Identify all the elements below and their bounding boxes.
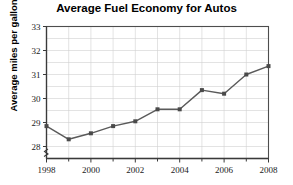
x-tick-label: 2002 bbox=[126, 165, 144, 175]
y-tick-label: 30 bbox=[32, 94, 42, 104]
chart-figure: Average Fuel Economy for Autos Average m… bbox=[0, 0, 293, 185]
data-point-marker bbox=[222, 92, 226, 96]
x-tick-label: 2006 bbox=[215, 165, 234, 175]
data-point-marker bbox=[89, 131, 93, 135]
data-point-marker bbox=[244, 73, 248, 77]
x-tick-label: 2008 bbox=[260, 165, 279, 175]
data-point-marker bbox=[133, 119, 137, 123]
y-tick-label: 32 bbox=[32, 46, 41, 56]
data-point-marker bbox=[45, 124, 49, 128]
data-point-marker bbox=[111, 124, 115, 128]
axis-break-mark bbox=[44, 149, 48, 157]
data-point-marker bbox=[178, 107, 182, 111]
line-chart-plot: 282930313233199820002002200420062008 bbox=[0, 0, 293, 185]
y-axis-break-icon bbox=[44, 149, 48, 157]
x-tick-label: 2004 bbox=[171, 165, 190, 175]
data-point-marker bbox=[67, 137, 71, 141]
x-tick-label: 1998 bbox=[38, 165, 57, 175]
data-point-marker bbox=[267, 64, 271, 68]
y-tick-label: 31 bbox=[32, 70, 41, 80]
x-tick-label: 2000 bbox=[82, 165, 101, 175]
y-tick-label: 29 bbox=[32, 118, 42, 128]
axis-ticks bbox=[43, 27, 269, 163]
data-point-marker bbox=[156, 107, 160, 111]
y-tick-label: 33 bbox=[32, 22, 42, 32]
gridlines bbox=[47, 27, 269, 159]
y-tick-label: 28 bbox=[32, 142, 42, 152]
data-point-marker bbox=[200, 88, 204, 92]
